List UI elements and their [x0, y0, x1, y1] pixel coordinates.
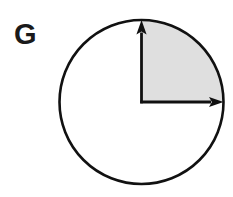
figure-container: G	[0, 0, 233, 197]
figure-label: G	[14, 20, 37, 49]
